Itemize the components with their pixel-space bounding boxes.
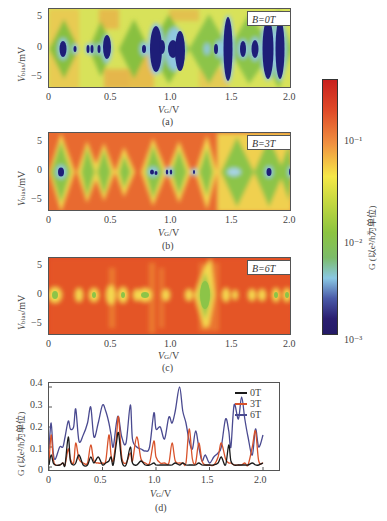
xtick: 2.0 (283, 214, 296, 225)
legend-item-6t: 6T (235, 409, 261, 420)
xtick: 0 (46, 338, 51, 349)
xtick: 1.0 (164, 338, 177, 349)
field-label-b6t: B=6T (247, 260, 291, 275)
ytick: 0 (38, 464, 43, 475)
xlabel-vg: VG/V (150, 488, 171, 499)
xtick: 0 (46, 214, 51, 225)
ytick: 5 (37, 10, 42, 21)
field-label-text: B=3T (252, 138, 275, 149)
legend-swatch-6t (235, 414, 247, 416)
legend-label: 0T (250, 387, 261, 398)
xlabel-vg: VG/V (158, 350, 179, 361)
xtick: 0.5 (104, 338, 117, 349)
ytick: 0.4 (30, 377, 43, 388)
ytick: −5 (31, 193, 42, 204)
caption-c: (c) (162, 362, 173, 373)
caption-b: (b) (162, 240, 174, 251)
heatmap-b3t: B=3T (48, 132, 291, 211)
legend-label: 3T (250, 398, 261, 409)
field-label-b3t: B=3T (247, 135, 291, 150)
xtick: 0.5 (104, 214, 117, 225)
colorbar-tick-1e-2: 10⁻² (344, 237, 362, 248)
xtick: 1.0 (164, 214, 177, 225)
legend: 0T 3T 6T (235, 387, 261, 420)
field-label-b0t: B=0T (247, 11, 291, 26)
legend-swatch-3t (235, 403, 247, 405)
ytick: 0 (37, 41, 42, 52)
xtick: 2.0 (283, 91, 296, 102)
field-label-text: B=6T (252, 263, 275, 274)
heatmap-b0t: B=0T (48, 8, 291, 88)
series-0t (49, 432, 263, 466)
ylabel-vbias: Vbias/mV (16, 295, 27, 330)
line-chart-d: 0T 3T 6T (48, 382, 280, 471)
field-label-text: B=0T (252, 14, 275, 25)
xtick: 1.5 (225, 91, 238, 102)
xtick: 1.0 (164, 91, 177, 102)
xlabel-vg: VG/V (158, 104, 179, 115)
series-6t (49, 387, 263, 463)
colorbar (322, 79, 338, 335)
colorbar-tick-1e-1: 10⁻¹ (344, 135, 362, 146)
colorbar-label: G (以e²/h为单位) (365, 206, 378, 270)
ytick: 0.1 (30, 443, 43, 454)
ytick: 5 (37, 135, 42, 146)
xlabel-vg: VG/V (158, 227, 179, 238)
ylabel-vbias: Vbias/mV (16, 171, 27, 206)
ytick: 0 (37, 164, 42, 175)
ylabel-vbias: Vbias/mV (16, 47, 27, 82)
caption-d: (d) (155, 502, 167, 513)
ytick: 0 (37, 288, 42, 299)
xtick: 1.5 (225, 214, 238, 225)
legend-swatch-0t (235, 392, 247, 394)
colorbar-tick-1e-3: 10⁻³ (344, 334, 362, 345)
xtick: 0 (46, 474, 51, 485)
caption-a: (a) (162, 116, 173, 127)
xtick: 0.5 (104, 91, 117, 102)
legend-item-0t: 0T (235, 387, 261, 398)
ytick: −5 (31, 317, 42, 328)
ytick: 5 (37, 259, 42, 270)
xtick: 1.0 (148, 474, 161, 485)
ytick: 0.3 (30, 399, 43, 410)
xtick: 2.0 (283, 338, 296, 349)
xtick: 0.5 (94, 474, 107, 485)
xtick: 1.5 (201, 474, 214, 485)
xtick: 1.5 (225, 338, 238, 349)
ytick: 0.2 (30, 421, 43, 432)
xtick: 2.0 (254, 474, 267, 485)
heatmap-b6t: B=6T (48, 257, 291, 335)
legend-label: 6T (250, 409, 261, 420)
xtick: 0 (46, 91, 51, 102)
ylabel-g: G (以e²/h为单位) (14, 412, 27, 476)
ytick: −5 (31, 70, 42, 81)
legend-item-3t: 3T (235, 398, 261, 409)
